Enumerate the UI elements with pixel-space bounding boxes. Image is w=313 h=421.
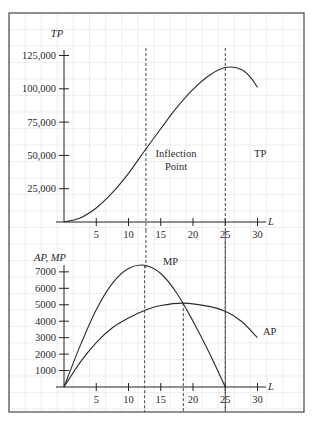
ap-mp-dashed-lines xyxy=(145,232,226,412)
y-tick-label: 5000 xyxy=(35,299,56,310)
y-tick-label: 125,000 xyxy=(22,50,56,61)
chart-canvas: 5101520253025,00050,00075,000100,000125,… xyxy=(0,0,313,421)
x-tick-label: 30 xyxy=(252,229,263,240)
x-tick-label: 15 xyxy=(156,394,167,405)
y-tick-label: 3000 xyxy=(35,332,56,343)
ap-mp-axes: 510152025301000200030004000500060007000 xyxy=(35,265,266,405)
x-tick-label: 10 xyxy=(123,394,134,405)
x-tick-label: 30 xyxy=(252,394,263,405)
y-tick-label: 50,000 xyxy=(27,150,56,161)
x-tick-label: 10 xyxy=(123,229,134,240)
y-tick-label: 100,000 xyxy=(22,83,56,94)
y-tick-label: 25,000 xyxy=(27,183,56,194)
y-tick-label: 7000 xyxy=(35,266,56,277)
ap-curve-label: AP xyxy=(263,326,277,337)
production-curves-figure: 5101520253025,00050,00075,000100,000125,… xyxy=(0,0,313,421)
tp-axis-label: TP xyxy=(51,28,64,39)
bottom-x-axis-label: L xyxy=(267,381,274,392)
x-tick-label: 15 xyxy=(156,229,167,240)
x-tick-label: 20 xyxy=(188,229,199,240)
y-tick-label: 75,000 xyxy=(27,117,56,128)
x-tick-label: 5 xyxy=(94,394,99,405)
mp-curve-label: MP xyxy=(163,256,178,267)
y-tick-label: 2000 xyxy=(35,349,56,360)
tp-curve xyxy=(64,67,258,222)
x-tick-label: 20 xyxy=(188,394,199,405)
ap-mp-axis-label: AP, MP xyxy=(33,252,66,263)
y-tick-label: 4000 xyxy=(35,316,56,327)
ap-mp-panel: 510152025301000200030004000500060007000 … xyxy=(33,232,277,412)
top-x-axis-label: L xyxy=(267,216,274,227)
inflection-label-line2: Point xyxy=(165,161,187,172)
x-tick-label: 5 xyxy=(94,229,99,240)
y-tick-label: 6000 xyxy=(35,283,56,294)
tp-curve-label: TP xyxy=(254,148,266,159)
inflection-label-line1: Inflection xyxy=(156,148,198,159)
y-tick-label: 1000 xyxy=(35,365,56,376)
